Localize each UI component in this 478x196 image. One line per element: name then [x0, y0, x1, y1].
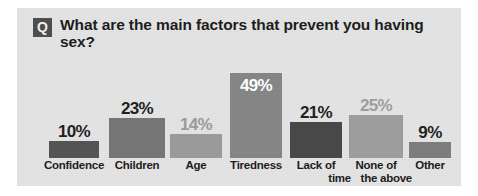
chart-header: Q What are the main factors that prevent… [33, 16, 451, 50]
category-label: Confidence [40, 159, 108, 172]
bar [290, 122, 342, 158]
question-title: What are the main factors that prevent y… [60, 16, 428, 50]
bar [349, 115, 403, 158]
bar [49, 141, 99, 158]
bar: 49% [230, 73, 282, 158]
bar [109, 118, 165, 158]
category-label-line: Lack of [297, 159, 336, 171]
bar-column: 21% [290, 63, 342, 158]
category-label-line: Age [186, 159, 207, 171]
chart-panel: Q What are the main factors that prevent… [17, 8, 461, 186]
bar-column: 49% [230, 63, 282, 158]
bar-value-label: 10% [58, 123, 90, 140]
question-badge-icon: Q [33, 18, 52, 37]
bar-value-label: 23% [121, 100, 153, 117]
category-axis: ConfidenceChildrenAgeTirednessLack oftim… [27, 159, 451, 189]
bar-value-label: 49% [230, 77, 282, 94]
category-label-line: None of [355, 159, 396, 171]
bar-column: 14% [170, 63, 222, 158]
bar-column: 10% [49, 63, 99, 158]
category-label-line: the above [340, 172, 412, 185]
bar-value-label: 21% [300, 104, 332, 121]
bar [170, 134, 222, 158]
bar-chart: 10%23%14%49%21%25%9% [27, 63, 451, 158]
bar [409, 142, 451, 158]
bar-value-label: 25% [360, 97, 392, 114]
bar-column: 25% [349, 63, 403, 158]
category-label-line: Children [115, 159, 160, 171]
bar-column: 23% [109, 63, 165, 158]
bar-value-label: 9% [418, 124, 441, 141]
category-label-line: Tiredness [230, 159, 282, 171]
bar-value-label: 14% [180, 116, 212, 133]
category-label-line: Confidence [44, 159, 104, 171]
bar-column: 9% [409, 63, 451, 158]
category-label-line: Other [415, 159, 444, 171]
category-label: Other [400, 159, 460, 172]
